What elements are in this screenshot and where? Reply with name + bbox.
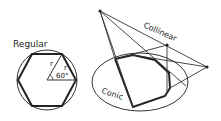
radius-label-right: r: [64, 64, 67, 72]
collinear-label: Collinear: [142, 21, 179, 44]
angle-arc: [50, 75, 53, 80]
collinear-point-1: [165, 43, 168, 46]
radius-label-left: r: [50, 60, 53, 68]
construction-line-2: [100, 11, 115, 59]
angle-label: 60°: [56, 72, 68, 80]
apex-point: [98, 9, 101, 12]
conic-figure: Collinear Conic: [92, 9, 209, 111]
diagram-svg: Regular r r 60° Collinear Conic: [0, 0, 221, 121]
construction-line-7: [170, 67, 207, 88]
collinear-point-2: [205, 65, 208, 68]
conic-label: Conic: [100, 86, 124, 101]
regular-label: Regular: [13, 39, 48, 49]
regular-hexagon-figure: Regular r r 60°: [13, 39, 77, 110]
inscribed-hexagon: [115, 55, 170, 107]
diagram: Regular r r 60° Collinear Conic: [0, 0, 221, 121]
